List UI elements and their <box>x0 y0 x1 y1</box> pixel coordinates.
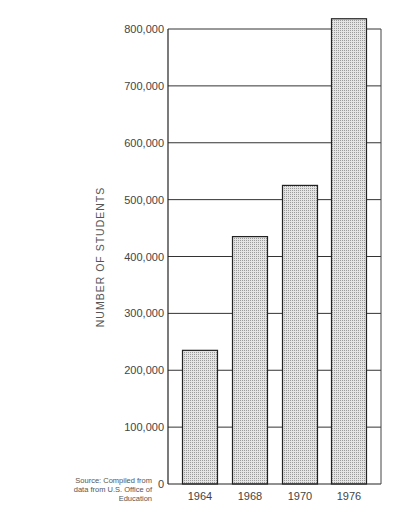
y-tick-label: 600,000 <box>124 137 164 149</box>
source-note: Source: Compiled from data from U.S. Off… <box>2 476 152 503</box>
y-tick-label: 300,000 <box>124 307 164 319</box>
source-line-2: data from U.S. Office of <box>2 485 152 494</box>
y-tick-label: 200,000 <box>124 364 164 376</box>
y-tick-label: 700,000 <box>124 80 164 92</box>
y-axis-label: NUMBER OF STUDENTS <box>94 187 106 328</box>
source-line-1: Source: Compiled from <box>2 476 152 485</box>
bars <box>183 19 367 484</box>
bar-1976 <box>332 19 367 484</box>
bar-1964 <box>183 350 218 484</box>
y-tick-label: 500,000 <box>124 194 164 206</box>
bar-chart: 0100,000200,000300,000400,000500,000600,… <box>0 0 401 512</box>
y-tick-label: 400,000 <box>124 251 164 263</box>
x-tick-label: 1968 <box>238 490 262 502</box>
y-tick-label: 0 <box>158 478 164 490</box>
bar-1968 <box>233 237 268 484</box>
x-tick-label: 1964 <box>188 490 212 502</box>
source-line-3: Education <box>2 494 152 503</box>
bar-1970 <box>283 185 318 484</box>
x-tick-labels: 1964196819701976 <box>188 490 361 502</box>
x-tick-label: 1976 <box>337 490 361 502</box>
y-tick-label: 100,000 <box>124 421 164 433</box>
y-tick-labels: 0100,000200,000300,000400,000500,000600,… <box>124 23 164 490</box>
y-tick-label: 800,000 <box>124 23 164 35</box>
x-tick-label: 1970 <box>288 490 312 502</box>
